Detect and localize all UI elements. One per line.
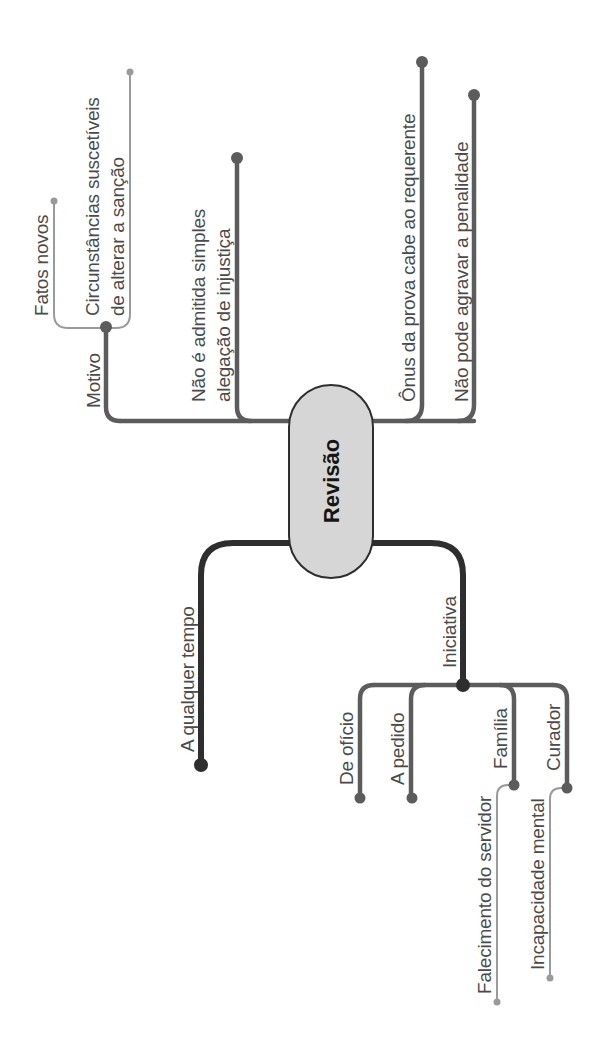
label-nao-admitida-line2[interactable]: alegação de injustiça (213, 228, 234, 402)
label-onus[interactable]: Ônus da prova cabe ao requerente (398, 114, 419, 402)
center-node-label: Revisão (319, 439, 344, 523)
label-a-qualquer-tempo[interactable]: A qualquer tempo (177, 606, 198, 752)
connector-incapacidade (550, 788, 567, 978)
dot-de-oficio (355, 793, 366, 804)
connector-falecimento (497, 785, 514, 1002)
dot-onus (416, 56, 428, 68)
dot-iniciativa (456, 678, 470, 692)
connector-nao-admitida (237, 158, 251, 421)
label-a-pedido[interactable]: A pedido (387, 713, 408, 785)
dot-motivo (100, 321, 112, 333)
connector-a-qualquer-tempo (201, 543, 300, 765)
connector-a-pedido (411, 685, 425, 798)
label-de-oficio[interactable]: De ofício (336, 712, 357, 785)
dot-nao-pode (468, 89, 480, 101)
label-motivo[interactable]: Motivo (83, 353, 104, 408)
label-iniciativa[interactable]: Iniciativa (439, 595, 460, 668)
connector-motivo (106, 327, 120, 421)
dot-a-qualquer-tempo (194, 758, 208, 772)
label-fatos-novos[interactable]: Fatos novos (31, 215, 52, 316)
label-circunstancias-line1[interactable]: Circunstâncias suscetíveis (82, 97, 103, 316)
connector-de-oficio (360, 685, 374, 798)
dot-curador (562, 783, 573, 794)
connectors-lower (201, 543, 567, 1002)
label-curador[interactable]: Curador (543, 703, 564, 771)
dot-falecimento (494, 999, 501, 1006)
label-circunstancias-line2[interactable]: de alterar a sanção (107, 157, 128, 316)
mind-map-canvas: Revisão Motivo Fatos novos Circunstância… (0, 0, 604, 1056)
label-nao-admitida-line1[interactable]: Não é admitida simples (188, 209, 209, 402)
label-familia[interactable]: Família (490, 707, 511, 769)
label-falecimento[interactable]: Falecimento do servidor (474, 795, 495, 994)
dot-incapacidade (547, 975, 554, 982)
dot-fatos-novos (51, 198, 58, 205)
center-node[interactable]: Revisão (289, 385, 373, 578)
label-incapacidade[interactable]: Incapacidade mental (527, 798, 548, 970)
label-nao-pode[interactable]: Não pode agravar a penalidade (451, 142, 472, 402)
dot-circunstancias (127, 69, 134, 76)
dot-a-pedido (407, 793, 418, 804)
dot-nao-admitida (231, 152, 243, 164)
dot-familia (509, 780, 520, 791)
